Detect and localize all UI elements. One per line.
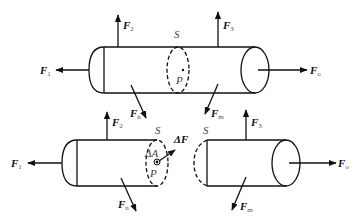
bl-point-p: P xyxy=(149,167,157,179)
br-section-s xyxy=(194,140,207,186)
top-section-label: S xyxy=(174,28,180,40)
top-section-s xyxy=(167,47,189,93)
section-method-diagram: P S F1 F2 F3 Fn Fm Fo S ΔA P ΔF xyxy=(0,0,358,224)
bl-left-cap xyxy=(62,140,77,186)
br-label-fo: Fo xyxy=(337,157,349,171)
top-label-fn: Fn xyxy=(129,107,141,121)
top-label-f3: F3 xyxy=(222,19,234,33)
bl-label-f2: F2 xyxy=(111,116,123,130)
top-body: P S F1 F2 F3 Fn Fm Fo xyxy=(39,12,321,121)
bl-section-label: S xyxy=(155,124,161,136)
top-point-p: P xyxy=(175,74,183,86)
bottom-right-part: S F3 Fm Fo xyxy=(194,110,349,214)
top-label-fo: Fo xyxy=(309,64,321,78)
bl-label-delta-f: ΔF xyxy=(173,133,189,145)
bl-area-label: ΔA xyxy=(144,147,158,159)
bl-label-f1: F1 xyxy=(10,157,22,171)
bl-label-fn: Fn xyxy=(117,198,129,212)
top-label-f2: F2 xyxy=(122,19,134,33)
bottom-left-part: S ΔA P ΔF F1 F2 Fn xyxy=(10,112,189,212)
top-label-f1: F1 xyxy=(39,64,51,78)
top-left-cap xyxy=(89,47,104,93)
top-label-fm: Fm xyxy=(210,107,224,121)
br-label-fm: Fm xyxy=(239,200,253,214)
br-label-f3: F3 xyxy=(250,116,262,130)
br-section-label: S xyxy=(203,124,209,136)
top-point-p-dot xyxy=(182,69,184,71)
